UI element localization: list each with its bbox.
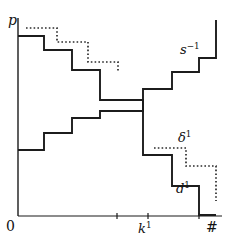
curve-label-d1: d1 [176, 181, 190, 195]
origin-label: 0 [6, 219, 15, 233]
curve-label-s-inverse: s−1 [180, 42, 200, 56]
step-function-plot [0, 0, 233, 247]
x-tick-label-hash: # [206, 220, 218, 234]
figure-container: p 0 k1 # s−1 δ1 d1 [0, 0, 233, 247]
curve-label-delta1: δ1 [178, 130, 191, 144]
x-tick-label-k1: k1 [138, 221, 152, 235]
y-axis-label: p [8, 13, 17, 27]
